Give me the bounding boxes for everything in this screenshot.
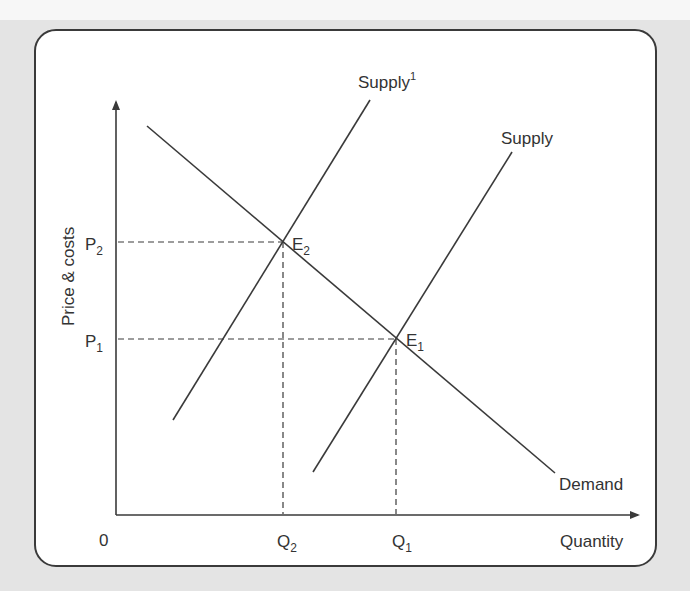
p2-label: P2 bbox=[85, 235, 103, 258]
supply1-line bbox=[173, 100, 370, 420]
supply-demand-chart: Price & costs P2 P1 0 Q2 Q1 Quantity E2 … bbox=[0, 0, 690, 591]
e1-label: E1 bbox=[406, 331, 424, 354]
y-axis-label: Price & costs bbox=[59, 227, 78, 326]
demand-line bbox=[147, 126, 555, 473]
x-axis-label: Quantity bbox=[560, 532, 624, 551]
q1-label: Q1 bbox=[392, 532, 412, 555]
supply1-label: Supply1 bbox=[358, 70, 416, 92]
supply-label: Supply bbox=[501, 129, 553, 148]
demand-label: Demand bbox=[559, 475, 623, 494]
p1-label: P1 bbox=[85, 332, 103, 355]
q2-label: Q2 bbox=[277, 532, 297, 555]
origin-label: 0 bbox=[99, 531, 108, 550]
supply-line bbox=[313, 152, 512, 472]
e2-label: E2 bbox=[292, 235, 310, 258]
